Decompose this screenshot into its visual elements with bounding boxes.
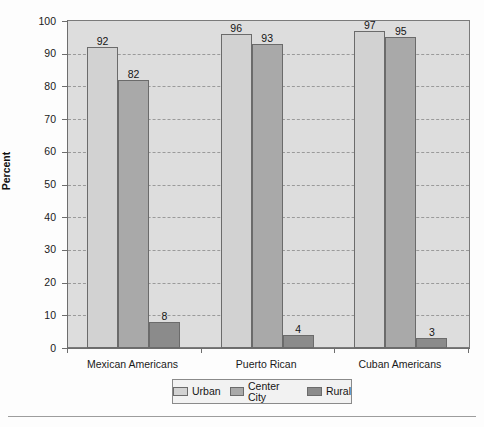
y-tick-mark (62, 283, 67, 284)
bar-value-label: 8 (162, 310, 168, 322)
bar (118, 80, 149, 348)
y-tick-label: 40 (26, 212, 56, 223)
bar-value-label: 96 (230, 22, 242, 34)
y-tick-label: 70 (26, 114, 56, 125)
bar-value-label: 95 (395, 25, 407, 37)
x-tick-mark (67, 348, 68, 353)
y-tick-labels: 0102030405060708090100 (0, 0, 60, 427)
y-tick-label: 50 (26, 179, 56, 190)
y-tick-label: 90 (26, 48, 56, 59)
y-tick-mark (62, 21, 67, 22)
bar-value-label: 82 (128, 68, 140, 80)
y-tick-label: 80 (26, 81, 56, 92)
legend-item[interactable]: Rural (307, 386, 351, 397)
bar (252, 44, 283, 348)
figure-canvas: 0102030405060708090100 Percent 928289693… (0, 0, 484, 427)
legend-item[interactable]: Center City (230, 381, 298, 402)
y-tick-mark (62, 152, 67, 153)
x-tick-mark (201, 348, 202, 353)
x-category-label: Cuban Americans (358, 358, 441, 370)
bar (354, 31, 385, 348)
bar-value-label: 92 (97, 35, 109, 47)
y-axis-title: Percent (0, 152, 12, 191)
footer-rule (8, 416, 476, 417)
x-tick-mark (334, 348, 335, 353)
y-tick-mark (62, 217, 67, 218)
legend-swatch-icon (307, 387, 322, 396)
bars-layer: 928289693497953 (68, 21, 469, 348)
y-tick-label: 100 (26, 16, 56, 27)
y-tick-label: 20 (26, 277, 56, 288)
y-tick-mark (62, 315, 67, 316)
bar-value-label: 4 (295, 323, 301, 335)
bar (416, 338, 447, 348)
legend-item[interactable]: Urban (173, 386, 221, 397)
y-tick-mark (62, 86, 67, 87)
y-tick-mark (62, 119, 67, 120)
legend-label: Rural (326, 386, 351, 397)
y-tick-label: 60 (26, 146, 56, 157)
y-tick-mark (62, 250, 67, 251)
bar (87, 47, 118, 348)
bar (385, 37, 416, 348)
y-tick-label: 30 (26, 244, 56, 255)
x-category-label: Mexican Americans (87, 358, 178, 370)
y-tick-label: 10 (26, 310, 56, 321)
bar (283, 335, 314, 348)
y-tick-mark (62, 185, 67, 186)
legend-swatch-icon (230, 387, 244, 396)
legend-swatch-icon (173, 387, 188, 396)
y-tick-label: 0 (26, 343, 56, 354)
bar-value-label: 3 (429, 326, 435, 338)
legend-label: Center City (248, 381, 298, 402)
x-axis-line (67, 348, 470, 349)
bar (221, 34, 252, 348)
bar-value-label: 97 (364, 19, 376, 31)
chart-legend: UrbanCenter CityRural (172, 379, 352, 404)
legend-label: Urban (192, 386, 221, 397)
y-tick-mark (62, 54, 67, 55)
x-tick-mark (468, 348, 469, 353)
x-category-label: Puerto Rican (236, 358, 297, 370)
bar-value-label: 93 (261, 32, 273, 44)
bar (149, 322, 180, 348)
